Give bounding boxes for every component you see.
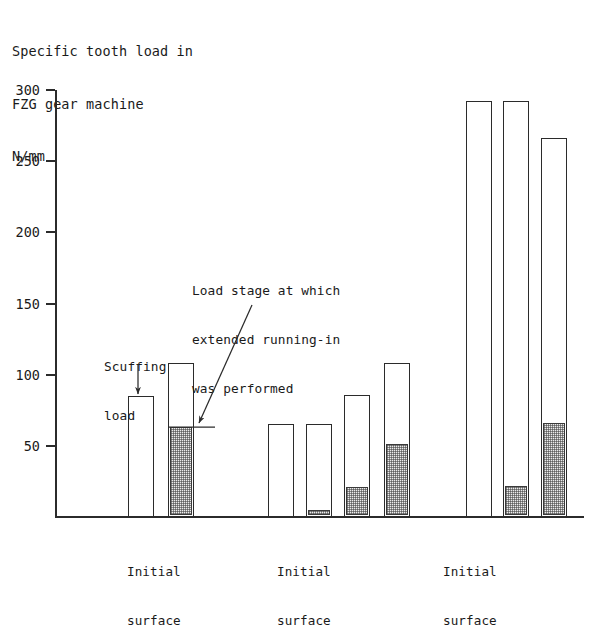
group-caption-2: Initial surface roughness 0.9μm Ra, 'as … [277,531,362,630]
y-axis-line [55,90,57,518]
bar-running-in-segment [170,427,193,515]
bar-running-in-segment [386,444,409,515]
y-axis-tick-label-250: 250 [0,154,40,168]
load-stage-label-line-2: extended running-in [192,332,340,348]
group-3-caption-line-1: Initial [443,564,543,580]
bar [306,424,332,517]
load-stage-label-line-3: was performed [192,381,340,397]
y-axis-tick-mark-200 [46,231,55,233]
group-2-caption-line-2: surface [277,613,362,629]
y-axis-tick-mark-100 [46,374,55,376]
y-axis-tick-label-300: 300 [0,83,40,97]
y-axis-tick-label-200: 200 [0,225,40,239]
bar-running-in-segment [346,487,369,515]
y-axis-tick-label-50: 50 [0,439,40,453]
bar [503,101,529,517]
bar-running-in-segment [543,423,566,515]
group-2-caption-line-1: Initial [277,564,362,580]
group-caption-3: Initial surface roughness 0.45μm Ra, pin… [443,531,543,630]
bar-chart-figure: Specific tooth load in FZG gear machine … [0,0,597,630]
y-axis-tick-mark-300 [46,89,55,91]
annotation-load-stage: Load stage at which extended running-in … [192,250,340,430]
y-axis-tick-label-150: 150 [0,297,40,311]
group-1-caption-line-2: surface [127,613,212,629]
y-axis-tick-mark-150 [46,303,55,305]
load-stage-label-line-1: Load stage at which [192,283,340,299]
bar-running-in-segment [505,486,528,516]
scuffing-label-line-1: Scuffing [104,359,166,375]
bar [466,101,492,517]
bar [268,424,294,517]
group-3-caption-line-2: surface [443,613,543,629]
y-axis-tick-mark-250 [46,160,55,162]
group-1-caption-line-1: Initial [127,564,212,580]
bar-running-in-segment [308,510,331,516]
scuffing-label-line-2: load [104,408,166,424]
y-axis-tick-label-100: 100 [0,368,40,382]
y-axis-tick-mark-50 [46,445,55,447]
annotation-scuffing-load: Scuffing load [104,326,166,457]
group-caption-1: Initial surface roughness 0.45μm Ra, 'as… [127,531,212,630]
